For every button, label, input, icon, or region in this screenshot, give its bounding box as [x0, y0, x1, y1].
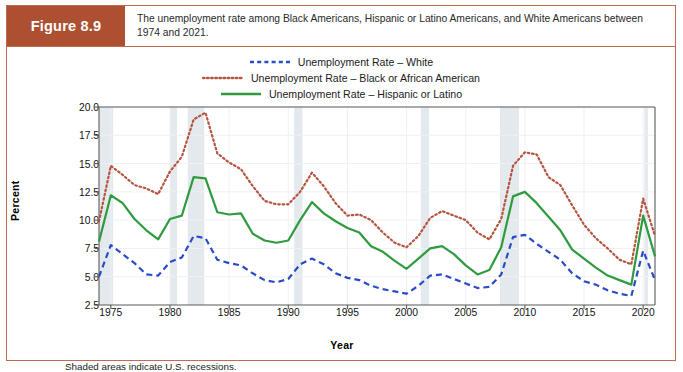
legend-label-white: Unemployment Rate – White	[298, 56, 433, 68]
x-tick-label: 2010	[513, 307, 536, 318]
legend-swatch-hispanic-solid-line	[220, 89, 262, 99]
figure-header: Figure 8.9 The unemployment rate among B…	[7, 6, 675, 47]
x-tick-label: 1995	[336, 307, 359, 318]
chart-legend: Unemployment Rate – White Unemployment R…	[7, 55, 675, 101]
figure-body: Unemployment Rate – White Unemployment R…	[7, 47, 675, 360]
legend-label-black: Unemployment Rate – Black or African Ame…	[251, 72, 480, 84]
x-tick-label: 1975	[99, 307, 122, 318]
legend-swatch-white-dashed-line	[249, 57, 291, 67]
chart-footnote: Shaded areas indicate U.S. recessions.	[65, 361, 237, 372]
x-tick-label: 2005	[454, 307, 477, 318]
x-tick-label: 1990	[277, 307, 300, 318]
figure-number-badge: Figure 8.9	[7, 6, 125, 46]
legend-label-hispanic: Unemployment Rate – Hispanic or Latino	[269, 88, 462, 100]
x-tick-label: 2015	[573, 307, 596, 318]
legend-item-hispanic: Unemployment Rate – Hispanic or Latino	[220, 87, 462, 101]
legend-item-black: Unemployment Rate – Black or African Ame…	[202, 71, 480, 85]
x-tick-label: 2000	[395, 307, 418, 318]
figure-caption: The unemployment rate among Black Americ…	[125, 6, 675, 46]
chart-plot-area: Percent 2.55.07.510.012.515.017.520.0 19…	[7, 103, 677, 353]
x-tick-label: 1980	[159, 307, 182, 318]
x-tick-label: 2020	[632, 307, 655, 318]
x-axis-tick-labels: 1975198019851990199520002005201020152020	[7, 307, 677, 323]
x-tick-label: 1985	[218, 307, 241, 318]
legend-swatch-black-dotted-line	[202, 73, 244, 83]
x-axis-label: Year	[7, 339, 677, 351]
legend-item-white: Unemployment Rate – White	[249, 55, 433, 69]
figure-card: Figure 8.9 The unemployment rate among B…	[6, 5, 676, 361]
